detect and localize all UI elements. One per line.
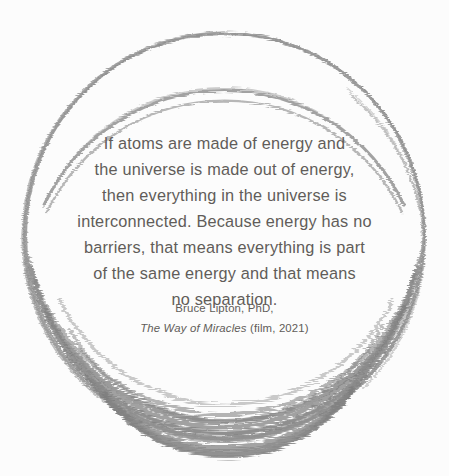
quote-line: interconnected. Because energy has no — [60, 208, 390, 234]
quote-line: the universe is made out of energy, — [60, 156, 390, 182]
quote-card: If atoms are made of energy and the univ… — [0, 0, 449, 476]
attribution-source-medium: (film, 2021) — [250, 322, 309, 334]
quote-attribution: Bruce Lipton, PhD, The Way of Miracles (… — [60, 298, 390, 338]
attribution-source-title: The Way of Miracles — [140, 322, 246, 334]
attribution-author: Bruce Lipton, PhD, — [60, 298, 390, 318]
attribution-source: The Way of Miracles (film, 2021) — [60, 318, 390, 338]
quote-line: then everything in the universe is — [60, 182, 390, 208]
quote-text: If atoms are made of energy and the univ… — [60, 130, 390, 312]
quote-line: of the same energy and that means — [60, 260, 390, 286]
card-content: If atoms are made of energy and the univ… — [0, 0, 449, 476]
quote-line: barriers, that means everything is part — [60, 234, 390, 260]
quote-line: If atoms are made of energy and — [60, 130, 390, 156]
